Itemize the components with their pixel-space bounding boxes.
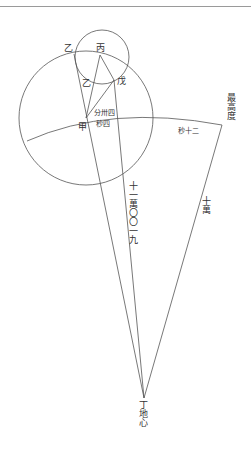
label-yi-outer: 乙 xyxy=(64,43,73,53)
label-jia: 甲 xyxy=(78,122,87,132)
label-arc-angle: 秒十二 xyxy=(178,126,199,136)
line-ding-highest xyxy=(144,125,222,398)
label-angle-bottom: 秒四 xyxy=(96,119,110,129)
diagram-canvas xyxy=(0,0,251,454)
label-short-distance: 十萬 xyxy=(201,196,211,214)
label-highest-altitude: 最高度 xyxy=(226,93,236,120)
label-ding-earth-center: 丁地心 xyxy=(138,400,148,427)
label-bing: 丙 xyxy=(96,43,105,53)
label-angle-top: 分卅四 xyxy=(94,108,115,118)
line-bing-wu xyxy=(100,55,114,80)
label-wu: 戊 xyxy=(117,76,126,86)
label-yi-inner: 乙 xyxy=(82,78,91,88)
label-long-distance: 十一萬〇〇一九 xyxy=(128,181,138,244)
